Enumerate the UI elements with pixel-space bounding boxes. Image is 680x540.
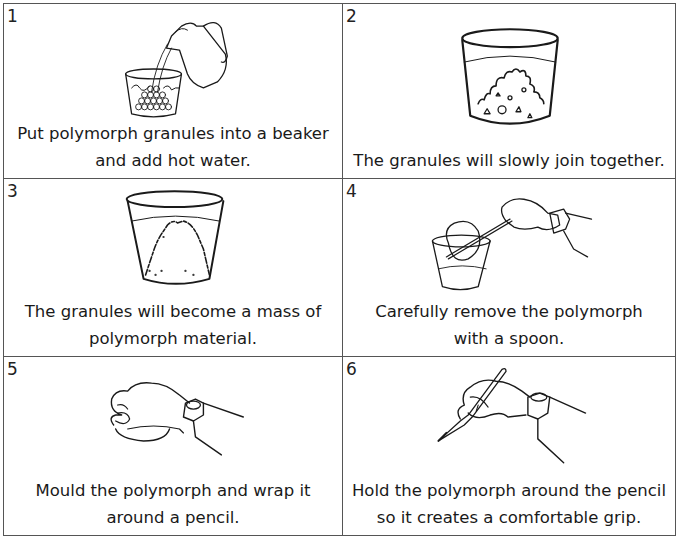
step-caption: Mould the polymorph and wrap it around a…: [4, 477, 342, 531]
step-caption: Put polymorph granules into a beaker and…: [4, 120, 342, 174]
step-caption: Hold the polymorph around the pencil so …: [343, 477, 675, 531]
step-caption: Carefully remove the polymorph with a sp…: [343, 298, 675, 352]
step-2-panel: 2 The granules will slowly join together…: [343, 4, 675, 179]
step-3-panel: 3 The granules will become a mass of pol…: [4, 179, 343, 357]
hand-holding-pencil-icon: [343, 357, 675, 482]
hand-moulding-polymorph-icon: [4, 357, 342, 482]
beaker-joining-granules-icon: [343, 4, 675, 134]
step-4-panel: 4 Carefully remove the polymorph with a …: [343, 179, 675, 357]
step-1-panel: 1 Put polymorph granules into a beaker a…: [4, 4, 343, 179]
step-5-panel: 5 Mould the polymorph and wrap it around…: [4, 357, 343, 535]
step-caption: The granules will slowly join together.: [343, 147, 675, 174]
hand-spoon-beaker-icon: [343, 179, 675, 299]
beaker-polymorph-mass-icon: [4, 179, 342, 299]
instruction-grid: 1 Put polymorph granules into a beaker a…: [3, 3, 676, 536]
jug-pouring-water-icon: [4, 4, 342, 124]
step-caption: The granules will become a mass of polym…: [4, 298, 342, 352]
step-6-panel: 6 Hold the polymorph around the pencil s…: [343, 357, 675, 535]
